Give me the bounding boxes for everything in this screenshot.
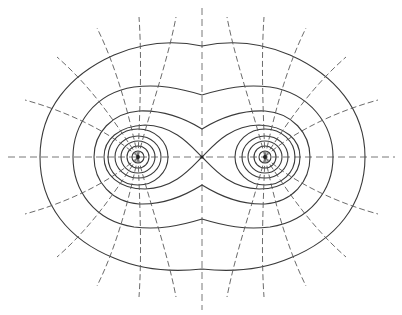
saddle-point <box>200 155 203 158</box>
diagram-canvas <box>0 0 402 315</box>
right-charge-point <box>263 155 267 159</box>
equipotential-diagram <box>0 0 402 315</box>
left-charge-point <box>136 155 140 159</box>
